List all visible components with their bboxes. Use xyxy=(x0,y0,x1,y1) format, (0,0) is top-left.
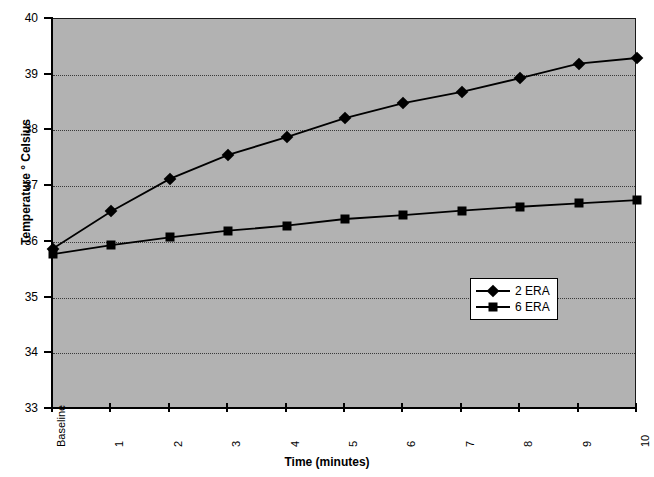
data-point-square xyxy=(457,206,466,215)
x-tick-label: 7 xyxy=(465,441,476,447)
data-point-diamond xyxy=(631,52,644,65)
data-point-square xyxy=(341,215,350,224)
data-point-square xyxy=(633,196,642,205)
x-tick-mark xyxy=(168,403,170,412)
x-tick-label: 8 xyxy=(523,441,534,447)
x-tick-label: 2 xyxy=(173,441,184,447)
data-point-square xyxy=(165,233,174,242)
x-tick-label: 1 xyxy=(114,441,125,447)
y-tick-mark xyxy=(44,73,53,75)
chart-legend: 2 ERA 6 ERA xyxy=(470,278,558,320)
legend-label: 6 ERA xyxy=(515,300,550,314)
y-tick-label: 33 xyxy=(10,402,38,414)
x-tick-mark xyxy=(401,403,403,412)
x-tick-label: 3 xyxy=(231,441,242,447)
y-tick-label: 39 xyxy=(10,68,38,80)
y-tick-mark xyxy=(44,128,53,130)
chart-container: 3334353637383940 Baseline12345678910 Tem… xyxy=(0,0,654,477)
data-point-diamond xyxy=(455,86,468,99)
data-point-diamond xyxy=(572,57,585,70)
data-point-square xyxy=(49,250,58,259)
x-tick-label: 10 xyxy=(640,435,651,447)
legend-marker-square-icon xyxy=(476,300,510,314)
y-tick-mark xyxy=(44,184,53,186)
y-axis-line xyxy=(51,17,53,409)
data-point-diamond xyxy=(105,205,118,218)
x-tick-mark xyxy=(577,403,579,412)
y-tick-label: 40 xyxy=(10,12,38,24)
data-point-square xyxy=(224,226,233,235)
data-point-square xyxy=(107,241,116,250)
x-axis-title: Time (minutes) xyxy=(0,455,654,469)
x-tick-label: Baseline xyxy=(56,405,67,447)
x-tick-mark xyxy=(460,403,462,412)
x-tick-mark xyxy=(518,403,520,412)
plot-area xyxy=(52,18,636,408)
data-point-square xyxy=(516,202,525,211)
data-point-diamond xyxy=(163,173,176,186)
x-tick-label: 4 xyxy=(290,441,301,447)
y-tick-label: 35 xyxy=(10,291,38,303)
data-point-square xyxy=(282,221,291,230)
y-tick-mark xyxy=(44,296,53,298)
legend-marker-diamond-icon xyxy=(476,284,510,298)
x-tick-label: 6 xyxy=(406,441,417,447)
x-tick-mark xyxy=(635,403,637,412)
data-point-diamond xyxy=(397,97,410,110)
x-tick-mark xyxy=(51,403,53,412)
series-markers xyxy=(53,19,635,407)
x-tick-mark xyxy=(109,403,111,412)
y-axis-title: Temperature ° Celsius xyxy=(19,92,33,272)
data-point-diamond xyxy=(514,72,527,85)
legend-item-2-era: 2 ERA xyxy=(476,283,550,299)
data-point-square xyxy=(399,211,408,220)
y-tick-mark xyxy=(44,240,53,242)
x-tick-label: 5 xyxy=(348,441,359,447)
legend-item-6-era: 6 ERA xyxy=(476,299,550,315)
data-point-diamond xyxy=(339,112,352,125)
x-tick-mark xyxy=(343,403,345,412)
data-point-square xyxy=(574,199,583,208)
y-tick-mark xyxy=(44,351,53,353)
x-tick-label: 9 xyxy=(582,441,593,447)
y-tick-mark xyxy=(44,17,53,19)
y-tick-label: 34 xyxy=(10,346,38,358)
x-tick-mark xyxy=(226,403,228,412)
data-point-diamond xyxy=(280,131,293,144)
x-tick-mark xyxy=(285,403,287,412)
legend-label: 2 ERA xyxy=(515,284,550,298)
data-point-diamond xyxy=(222,149,235,162)
